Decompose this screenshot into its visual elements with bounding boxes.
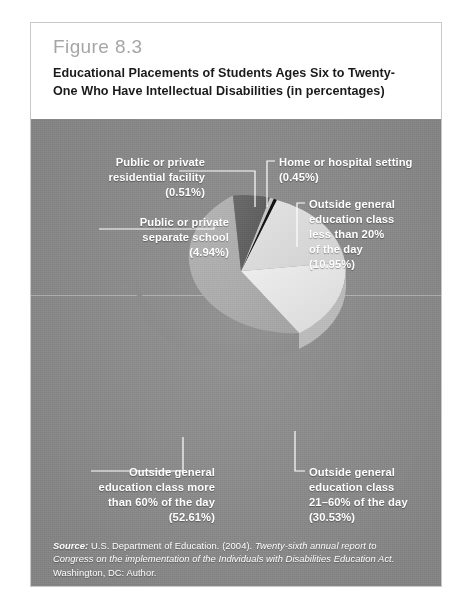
callout-more-than-60: Outside general education class more tha… (47, 465, 215, 525)
source-publisher: U.S. Department of Education. (2004). (88, 540, 255, 551)
leader-line-21-60 (295, 431, 305, 471)
source-note: Source: U.S. Department of Education. (2… (53, 539, 417, 579)
figure-title: Educational Placements of Students Ages … (53, 64, 419, 101)
figure-card: Figure 8.3 Educational Placements of Stu… (30, 22, 442, 587)
callout-home-hospital: Home or hospital setting (0.45%) (279, 155, 441, 185)
callout-less-than-20: Outside general education class less tha… (309, 197, 441, 271)
source-label: Source: (53, 540, 88, 551)
figure-header: Figure 8.3 Educational Placements of Stu… (31, 23, 441, 119)
callout-21-60: Outside general education class 21–60% o… (309, 465, 441, 525)
callout-separate-school: Public or private separate school (4.94%… (77, 215, 229, 260)
figure-body: Public or private residential facility (… (31, 119, 441, 587)
callout-residential-facility: Public or private residential facility (… (53, 155, 205, 200)
source-location: Washington, DC: Author. (53, 567, 156, 578)
pie-chart: Public or private residential facility (… (31, 119, 441, 587)
figure-number: Figure 8.3 (53, 37, 419, 58)
